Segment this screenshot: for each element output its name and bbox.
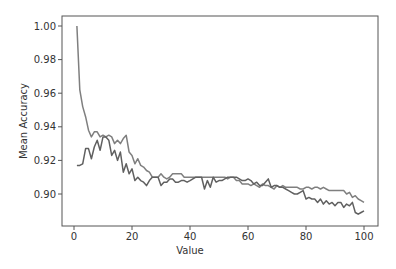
- x-tick-label: 60: [242, 231, 255, 242]
- y-tick-label: 0.98: [34, 54, 56, 65]
- x-tick-label: 100: [354, 231, 373, 242]
- x-tick-label: 80: [300, 231, 313, 242]
- y-tick-label: 0.90: [34, 189, 56, 200]
- chart-background: [0, 0, 396, 269]
- y-tick-label: 0.92: [34, 155, 56, 166]
- x-tick-label: 0: [71, 231, 77, 242]
- line-chart: 020406080100 0.900.920.940.960.981.00 Va…: [0, 0, 396, 269]
- y-tick-label: 0.96: [34, 88, 56, 99]
- y-axis-label: Mean Accuracy: [18, 83, 29, 159]
- y-tick-label: 1.00: [34, 21, 56, 32]
- y-tick-label: 0.94: [34, 121, 56, 132]
- x-axis-label: Value: [176, 245, 203, 256]
- x-tick-label: 40: [184, 231, 197, 242]
- x-tick-label: 20: [126, 231, 139, 242]
